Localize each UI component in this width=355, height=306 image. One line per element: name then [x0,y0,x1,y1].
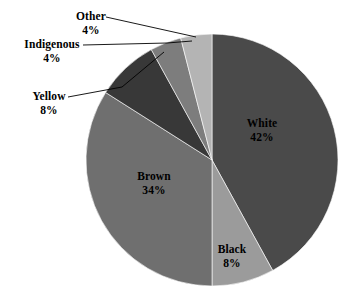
slice-label-black: Black 8% [207,243,257,270]
slice-label-white: White 42% [236,117,288,144]
slice-label-other-value: 4% [62,24,120,38]
slice-label-white-name: White [236,117,288,131]
slice-label-indigenous-value: 4% [6,52,98,66]
slice-label-brown-name: Brown [124,170,184,184]
slice-label-indigenous-name: Indigenous [6,38,98,52]
slice-label-white-value: 42% [236,131,288,145]
slice-label-yellow: Yellow 8% [18,90,80,117]
slice-label-yellow-name: Yellow [18,90,80,104]
slice-label-black-name: Black [207,243,257,257]
pie-chart-figure: Other 4% Indigenous 4% Yellow 8% White 4… [0,0,355,306]
slice-label-yellow-value: 8% [18,104,80,118]
slice-label-brown: Brown 34% [124,170,184,197]
slice-label-brown-value: 34% [124,184,184,198]
slice-label-other-name: Other [62,10,120,24]
slice-label-other: Other 4% [62,10,120,37]
slice-label-black-value: 8% [207,257,257,271]
slice-label-indigenous: Indigenous 4% [6,38,98,65]
